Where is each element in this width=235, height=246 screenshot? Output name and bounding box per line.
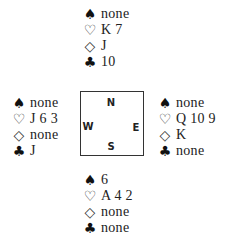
south-spades-row: ♠6 bbox=[82, 172, 133, 188]
spade-icon: ♠ bbox=[82, 6, 98, 22]
club-icon: ♣ bbox=[82, 220, 98, 236]
heart-icon: ♡ bbox=[11, 111, 27, 127]
south-clubs-row: ♣none bbox=[82, 220, 133, 236]
spade-icon: ♠ bbox=[82, 172, 98, 188]
west-clubs: J bbox=[30, 143, 36, 159]
north-hearts: K 7 bbox=[101, 22, 123, 38]
east-hand: ♠none ♡Q 10 9 ◇K ♣none bbox=[157, 95, 216, 159]
spade-icon: ♠ bbox=[157, 95, 173, 111]
west-hearts: J 6 3 bbox=[30, 111, 58, 127]
heart-icon: ♡ bbox=[157, 111, 173, 127]
compass-north: N bbox=[107, 97, 115, 108]
diamond-icon: ◇ bbox=[82, 204, 98, 220]
diamond-icon: ◇ bbox=[11, 127, 27, 143]
club-icon: ♣ bbox=[157, 143, 173, 159]
south-spades: 6 bbox=[101, 172, 108, 188]
heart-icon: ♡ bbox=[82, 188, 98, 204]
south-hand: ♠6 ♡A 4 2 ◇none ♣none bbox=[82, 172, 133, 236]
south-hearts: A 4 2 bbox=[101, 188, 133, 204]
north-clubs-row: ♣10 bbox=[82, 54, 129, 70]
north-spades: none bbox=[101, 6, 129, 22]
east-diamonds: K bbox=[176, 127, 186, 143]
east-spades-row: ♠none bbox=[157, 95, 216, 111]
south-diamonds: none bbox=[101, 204, 129, 220]
diamond-icon: ◇ bbox=[157, 127, 173, 143]
east-spades: none bbox=[176, 95, 204, 111]
east-diamonds-row: ◇K bbox=[157, 127, 216, 143]
east-clubs-row: ♣none bbox=[157, 143, 216, 159]
compass-south: S bbox=[107, 141, 114, 152]
west-diamonds-row: ◇none bbox=[11, 127, 58, 143]
north-spades-row: ♠none bbox=[82, 6, 129, 22]
west-hearts-row: ♡J 6 3 bbox=[11, 111, 58, 127]
south-clubs: none bbox=[101, 220, 129, 236]
east-hearts-row: ♡Q 10 9 bbox=[157, 111, 216, 127]
heart-icon: ♡ bbox=[82, 22, 98, 38]
compass-east: E bbox=[133, 122, 140, 133]
club-icon: ♣ bbox=[82, 54, 98, 70]
west-diamonds: none bbox=[30, 127, 58, 143]
west-clubs-row: ♣J bbox=[11, 143, 58, 159]
north-diamonds-row: ◇J bbox=[82, 38, 129, 54]
south-hearts-row: ♡A 4 2 bbox=[82, 188, 133, 204]
east-clubs: none bbox=[176, 143, 204, 159]
diamond-icon: ◇ bbox=[82, 38, 98, 54]
west-spades: none bbox=[30, 95, 58, 111]
compass-west: W bbox=[82, 121, 93, 132]
north-hearts-row: ♡K 7 bbox=[82, 22, 129, 38]
west-hand: ♠none ♡J 6 3 ◇none ♣J bbox=[11, 95, 58, 159]
north-diamonds: J bbox=[101, 38, 107, 54]
east-hearts: Q 10 9 bbox=[176, 111, 216, 127]
north-hand: ♠none ♡K 7 ◇J ♣10 bbox=[82, 6, 129, 70]
club-icon: ♣ bbox=[11, 143, 27, 159]
north-clubs: 10 bbox=[101, 54, 116, 70]
west-spades-row: ♠none bbox=[11, 95, 58, 111]
south-diamonds-row: ◇none bbox=[82, 204, 133, 220]
spade-icon: ♠ bbox=[11, 95, 27, 111]
